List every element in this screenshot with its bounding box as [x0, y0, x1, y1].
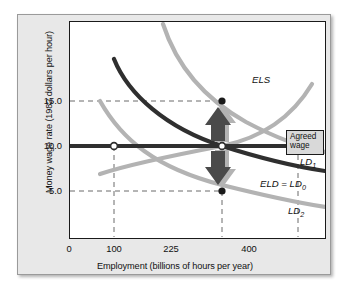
- curve-label-ld2-text: LD: [288, 205, 300, 216]
- curve-label-eld-ld0: ELD = LD0: [260, 178, 306, 192]
- marker-225-10: [219, 143, 226, 150]
- curve-label-els: ELS: [252, 74, 270, 85]
- figure-panel: Money wage rate (1982 dollars per hour) …: [17, 14, 331, 275]
- curve-label-ld2-sub: 2: [300, 210, 304, 219]
- y-tick-5: 5.0: [18, 185, 62, 196]
- x-tick-225: 225: [141, 243, 201, 254]
- x-tick-400: 400: [219, 243, 279, 254]
- curve-label-eld-text: ELD = LD: [260, 178, 302, 189]
- curve-label-ld1: LD1: [300, 156, 316, 170]
- agreed-wage-callout: Agreed wage: [286, 130, 324, 155]
- curve-label-ld1-text: LD: [300, 156, 312, 167]
- x-tick-100: 100: [84, 243, 144, 254]
- x-axis-label: Employment (billions of hours per year): [18, 261, 332, 271]
- curve-label-ld1-sub: 1: [312, 161, 316, 170]
- agreed-wage-line2: wage: [290, 142, 320, 151]
- marker-225-5: [218, 187, 225, 194]
- y-tick-15: 15.0: [18, 95, 62, 106]
- marker-100-10: [111, 143, 118, 150]
- curve-label-ld2: LD2: [288, 205, 304, 219]
- guide-lines: [70, 101, 298, 237]
- curve-label-eld-sub: 0: [302, 183, 306, 192]
- y-tick-10: 10.0: [18, 140, 62, 151]
- marker-225-15: [218, 97, 225, 104]
